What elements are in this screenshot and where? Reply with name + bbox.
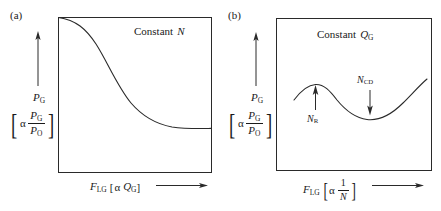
figure-container: (a) ConstantN PG [ α PG PO ] FLG [ α bbox=[0, 0, 441, 211]
x-axis-arrow-b bbox=[0, 0, 441, 211]
